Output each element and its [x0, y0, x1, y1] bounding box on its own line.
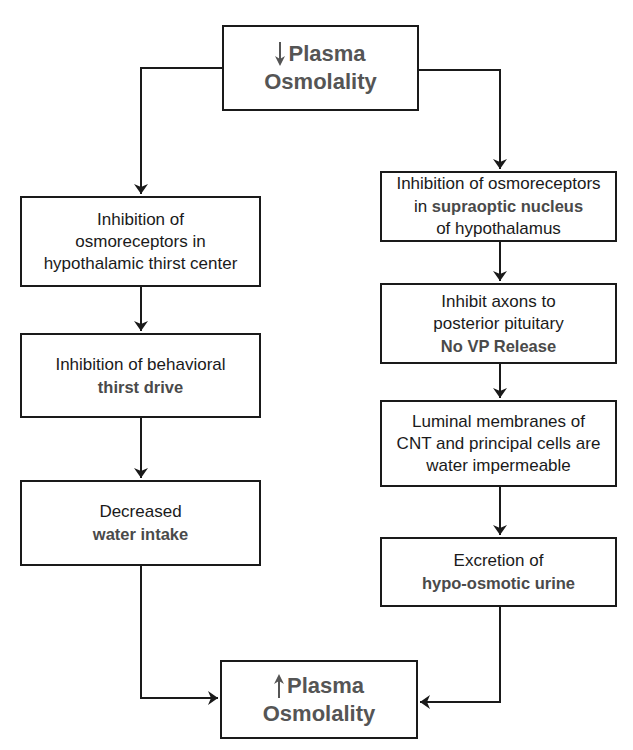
box-text: Inhibition of osmoreceptors	[396, 173, 600, 195]
box-text: of hypothalamus	[436, 218, 561, 240]
box-text: Inhibit axons to	[441, 291, 555, 313]
box-text: Decreased	[99, 501, 181, 523]
bottom-box-increased-plasma-osmolality: Plasma Osmolality	[220, 660, 418, 739]
bottom-box-line2: Osmolality	[263, 700, 375, 728]
right-box-water-impermeable: Luminal membranes of CNT and principal c…	[380, 400, 617, 487]
box-text-prefix: in	[414, 197, 432, 216]
box-text-emphasis: water intake	[93, 523, 188, 545]
left-box-osmoreceptor-inhibition: Inhibition of osmoreceptors in hypothala…	[20, 196, 261, 287]
left-box-thirst-drive-inhibition: Inhibition of behavioral thirst drive	[20, 333, 261, 418]
box-text-emphasis: thirst drive	[98, 376, 183, 398]
box-text-emphasis: No VP Release	[441, 335, 556, 357]
left-box-decreased-water-intake: Decreased water intake	[20, 480, 261, 566]
box-text: CNT and principal cells are	[397, 433, 601, 455]
box-text: water impermeable	[426, 455, 571, 477]
down-arrow-icon	[275, 41, 285, 67]
right-box-supraoptic-inhibition: Inhibition of osmoreceptors in supraopti…	[380, 171, 617, 242]
box-text: Excretion of	[454, 550, 544, 572]
bottom-box-line1: Plasma	[287, 672, 364, 700]
top-box-line1: Plasma	[288, 40, 365, 68]
box-text-line: in supraoptic nucleus	[414, 195, 583, 218]
top-box-decreased-plasma-osmolality: Plasma Osmolality	[222, 25, 419, 111]
box-text-emphasis: hypo-osmotic urine	[422, 572, 575, 594]
box-text: hypothalamic thirst center	[44, 253, 238, 275]
arrow-top-to-left	[141, 68, 222, 194]
box-text: Luminal membranes of	[412, 411, 585, 433]
top-box-line2: Osmolality	[264, 68, 376, 96]
arrow-top-to-right	[419, 70, 500, 169]
box-text-emphasis: supraoptic nucleus	[432, 197, 583, 215]
right-box-no-vp-release: Inhibit axons to posterior pituitary No …	[380, 283, 617, 364]
box-text: osmoreceptors in	[75, 231, 205, 253]
box-text: Inhibition of	[97, 209, 184, 231]
arrow-right-to-bottom	[420, 607, 500, 702]
right-box-hypo-osmotic-urine: Excretion of hypo-osmotic urine	[380, 537, 617, 607]
up-arrow-icon	[274, 673, 284, 699]
box-text: Inhibition of behavioral	[55, 354, 225, 376]
arrow-left-to-bottom	[141, 566, 218, 698]
box-text: posterior pituitary	[433, 313, 563, 335]
